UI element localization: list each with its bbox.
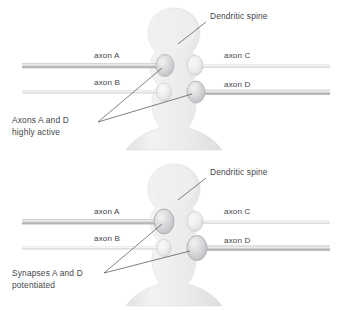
- axon-b-shaft: [22, 246, 159, 249]
- synapses-potentiated-caption-line2: potentiated: [12, 280, 55, 290]
- axon-a-shaft: [22, 63, 162, 68]
- axon-a-label: axon A: [94, 51, 120, 60]
- axon-b-label: axon B: [94, 234, 120, 243]
- dendrite-head: [152, 10, 196, 50]
- figure-canvas: axon A axon B axon C axon D Dendritic sp…: [0, 0, 349, 311]
- axon-d-terminal: [187, 81, 205, 103]
- synaptic-potentiation-figure: axon A axon B axon C axon D Dendritic sp…: [0, 0, 349, 311]
- axon-c-label: axon C: [224, 51, 251, 60]
- synapses-potentiated-caption-line1: Synapses A and D: [12, 268, 83, 278]
- axon-b-shaft: [22, 90, 159, 93]
- dendrite-head: [152, 166, 196, 206]
- axons-active-caption-line2: highly active: [12, 127, 60, 137]
- dendritic-spine-callout: Dendritic spine: [210, 167, 268, 177]
- axon-d-label: axon D: [224, 80, 251, 89]
- axon-a-shaft: [22, 219, 160, 224]
- axon-d-shaft: [197, 245, 330, 250]
- axon-c-label: axon C: [224, 207, 251, 216]
- axon-c-shaft: [196, 64, 330, 68]
- axon-d-label: axon D: [224, 236, 251, 245]
- axon-a-terminal: [154, 209, 174, 234]
- dendritic-spine-callout: Dendritic spine: [210, 11, 268, 21]
- axon-d-shaft: [196, 90, 330, 95]
- axon-b-label: axon B: [94, 78, 120, 87]
- axon-c-terminal: [187, 212, 203, 232]
- axon-a-terminal: [156, 55, 174, 77]
- axon-c-shaft: [196, 220, 330, 223]
- axon-b-terminal: [157, 83, 172, 101]
- axon-a-label: axon A: [94, 207, 120, 216]
- axon-d-terminal: [187, 236, 207, 261]
- axon-c-terminal: [187, 56, 203, 76]
- axon-b-terminal: [157, 239, 171, 257]
- axons-active-caption-line1: Axons A and D: [12, 115, 69, 125]
